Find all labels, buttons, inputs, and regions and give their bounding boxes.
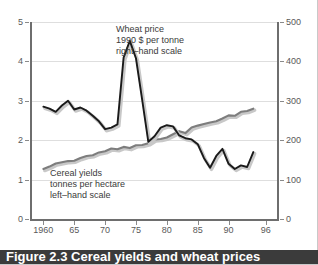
annotation-cereal-yields: Cereal yields tonnes per hectare left–ha… — [50, 168, 125, 201]
x-axis-tick-label: 70 — [100, 226, 110, 235]
x-axis-tick-label: 96 — [261, 226, 271, 235]
plot-area: 0 1 2 3 4 5 0 100 200 300 400 500 — [31, 22, 278, 219]
y-axis-left-tick-label: 4 — [18, 57, 23, 66]
y-axis-right-tick-label: 500 — [286, 18, 301, 27]
annotation-wheat-line1: Wheat price — [116, 24, 184, 35]
figure-caption-bar: Figure 2.3 Cereal yields and wheat price… — [0, 250, 318, 264]
y-axis-left-tick-label: 0 — [18, 215, 23, 224]
x-axis-spine — [30, 219, 279, 221]
y-axis-right-tick-label: 200 — [286, 136, 301, 145]
x-axis-tick-label: 90 — [224, 226, 234, 235]
y-axis-left-tick-label: 5 — [18, 18, 23, 27]
annotation-wheat-line3: right–hand scale — [116, 46, 184, 57]
y-axis-left-tick-label: 2 — [18, 136, 23, 145]
annotation-wheat-line2: 1990 $ per tonne — [116, 35, 184, 46]
x-axis-tick-label: 80 — [162, 226, 172, 235]
y-axis-left-tick-label: 1 — [18, 176, 23, 185]
y-axis-right-tick — [280, 140, 284, 141]
y-axis-left-tick — [25, 61, 29, 62]
x-axis-tick-label: 75 — [131, 226, 141, 235]
y-axis-right-tick — [280, 61, 284, 62]
y-axis-left-tick — [25, 219, 29, 220]
annotation-yields-line2: tonnes per hectare — [50, 179, 125, 190]
wheat-price-series — [43, 41, 254, 171]
y-axis-right-tick — [280, 101, 284, 102]
y-axis-right-tick — [280, 219, 284, 220]
y-axis-left-tick — [25, 140, 29, 141]
y-axis-right-tick-label: 300 — [286, 97, 301, 106]
y-axis-right-tick — [280, 22, 284, 23]
y-axis-right-tick — [280, 180, 284, 181]
x-axis-tick-label: 65 — [69, 226, 79, 235]
annotation-yields-line1: Cereal yields — [50, 168, 125, 179]
y-axis-right-tick-label: 100 — [286, 176, 301, 185]
y-axis-right-tick-label: 0 — [286, 215, 291, 224]
annotation-wheat-price: Wheat price 1990 $ per tonne right–hand … — [116, 24, 184, 57]
y-axis-left-tick — [25, 101, 29, 102]
y-axis-left-tick — [25, 22, 29, 23]
x-axis-tick-label: 85 — [193, 226, 203, 235]
y-axis-left-tick-label: 3 — [18, 97, 23, 106]
figure-caption-text: Figure 2.3 Cereal yields and wheat price… — [6, 250, 260, 264]
wheat-price-line — [43, 41, 253, 169]
annotation-yields-line3: left–hand scale — [50, 190, 125, 201]
figure-container: 0 1 2 3 4 5 0 100 200 300 400 500 — [0, 0, 318, 265]
x-axis: 196065707580859096 — [31, 219, 278, 220]
x-axis-tick-label: 1960 — [33, 226, 53, 235]
y-axis-left-tick — [25, 180, 29, 181]
y-axis-right-tick-label: 400 — [286, 57, 301, 66]
